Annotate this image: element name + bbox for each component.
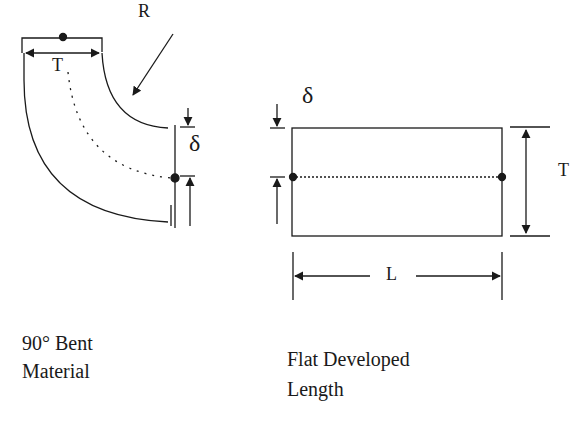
bent-caption-line2: Material <box>22 357 90 385</box>
flat-developed-figure <box>270 104 550 300</box>
flat-caption-line2: Length <box>287 375 344 403</box>
radius-arrow <box>133 34 173 95</box>
outer-arc <box>24 53 168 222</box>
bent-material-figure <box>22 34 195 229</box>
length-label: L <box>386 264 397 285</box>
flat-rectangle <box>292 128 502 236</box>
bent-thickness-label: T <box>52 55 63 76</box>
bent-delta-label: δ <box>189 130 200 157</box>
neutral-dot <box>171 174 179 182</box>
flat-caption-line1: Flat Developed <box>287 345 410 373</box>
flat-thickness-label: T <box>558 160 569 181</box>
center-dot-top <box>60 34 67 41</box>
bent-caption-line1: 90° Bent <box>22 329 93 357</box>
neutral-axis-arc <box>68 72 172 178</box>
flat-delta-label: δ <box>302 82 313 109</box>
inner-arc <box>102 53 168 128</box>
radius-label: R <box>138 1 150 22</box>
